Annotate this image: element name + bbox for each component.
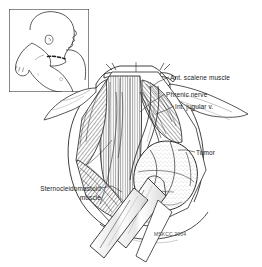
illustration-artwork — [0, 0, 262, 267]
medical-illustration-figure: Ant. scalene muscle Phrenic nerve Int. j… — [0, 0, 262, 267]
illustration-credit: MSKCC 2004 — [154, 231, 186, 237]
patient-positioning-inset-group — [9, 9, 89, 92]
label-tumor: Tumor — [196, 149, 215, 158]
label-sternocleidomastoid-muscle: Sternocleidomastoid muscle — [13, 185, 101, 202]
label-phrenic-nerve: Phrenic nerve — [166, 91, 207, 100]
label-int-jugular-vein: Int. jugular v. — [175, 103, 213, 112]
label-ant-scalene-muscle: Ant. scalene muscle — [170, 74, 230, 83]
